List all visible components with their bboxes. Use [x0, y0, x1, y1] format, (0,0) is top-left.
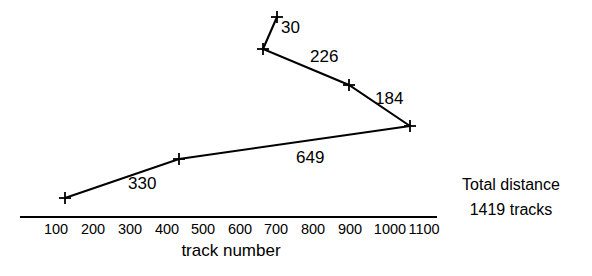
x-axis-title: track number — [181, 241, 281, 260]
x-tick-label-300: 300 — [118, 221, 142, 237]
marker-track-925 — [343, 79, 355, 91]
x-tick-label-1000: 1000 — [374, 221, 406, 237]
segment-distance-649: 649 — [296, 148, 324, 167]
marker-track-1109 — [404, 120, 416, 132]
x-tick-label-700: 700 — [264, 221, 288, 237]
total-distance-label: Total distance — [462, 176, 560, 193]
seek-path-lower — [65, 126, 410, 198]
x-tick-label-500: 500 — [191, 221, 215, 237]
segment-distance-184: 184 — [375, 89, 403, 108]
x-tick-label-800: 800 — [301, 221, 325, 237]
seek-plot-svg: 330 649 184 226 30 100 200 300 400 500 6… — [0, 0, 592, 276]
seek-sequence-figure: 330 649 184 226 30 100 200 300 400 500 6… — [0, 0, 592, 276]
segment-distance-226: 226 — [310, 47, 338, 66]
x-tick-label-200: 200 — [81, 221, 105, 237]
segment-distance-30: 30 — [281, 18, 300, 37]
x-tick-label-900: 900 — [338, 221, 362, 237]
x-tick-label-400: 400 — [155, 221, 179, 237]
marker-track-130 — [59, 192, 71, 204]
x-tick-label-600: 600 — [228, 221, 252, 237]
x-tick-label-100: 100 — [44, 221, 68, 237]
marker-track-699 — [257, 43, 269, 55]
total-distance-value: 1419 tracks — [470, 201, 553, 218]
x-tick-label-1100: 1100 — [408, 221, 439, 237]
marker-track-460 — [173, 153, 185, 165]
segment-distance-330: 330 — [128, 174, 156, 193]
